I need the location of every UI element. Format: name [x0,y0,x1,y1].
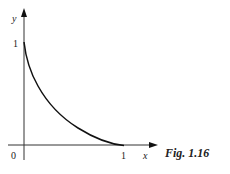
y-tick-label: 1 [13,39,18,49]
origin-label: 0 [11,151,16,161]
x-tick-label: 1 [121,151,126,161]
curve-line [24,42,124,146]
figure-caption: Fig. 1.16 [165,146,209,161]
y-axis-label: y [12,14,16,24]
y-axis-arrow-icon [21,8,27,17]
x-axis-label: x [143,151,147,161]
x-axis-arrow-icon [149,142,158,148]
